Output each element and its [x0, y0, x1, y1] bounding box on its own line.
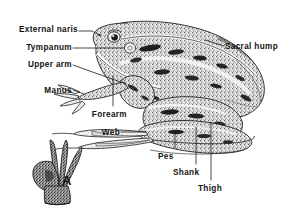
label-sacral-hump: Sacral hump [225, 42, 278, 52]
label-thigh: Thigh [198, 184, 222, 194]
label-shank: Shank [173, 168, 199, 178]
tympanum-mark [124, 43, 135, 53]
label-manus: Manus [44, 86, 72, 96]
label-web: Web [102, 128, 120, 138]
label-upper-arm: Upper arm [28, 60, 72, 70]
label-forearm: Forearm [92, 110, 127, 120]
label-tympanum: Tympanum [26, 43, 72, 53]
label-pes: Pes [158, 152, 174, 162]
label-inset-a: A [62, 176, 71, 186]
frog-anatomy-figure: External naris Tympanum Upper arm Manus … [0, 0, 293, 213]
inset-manus-illustration [33, 140, 82, 205]
label-external-naris: External naris [19, 25, 78, 35]
